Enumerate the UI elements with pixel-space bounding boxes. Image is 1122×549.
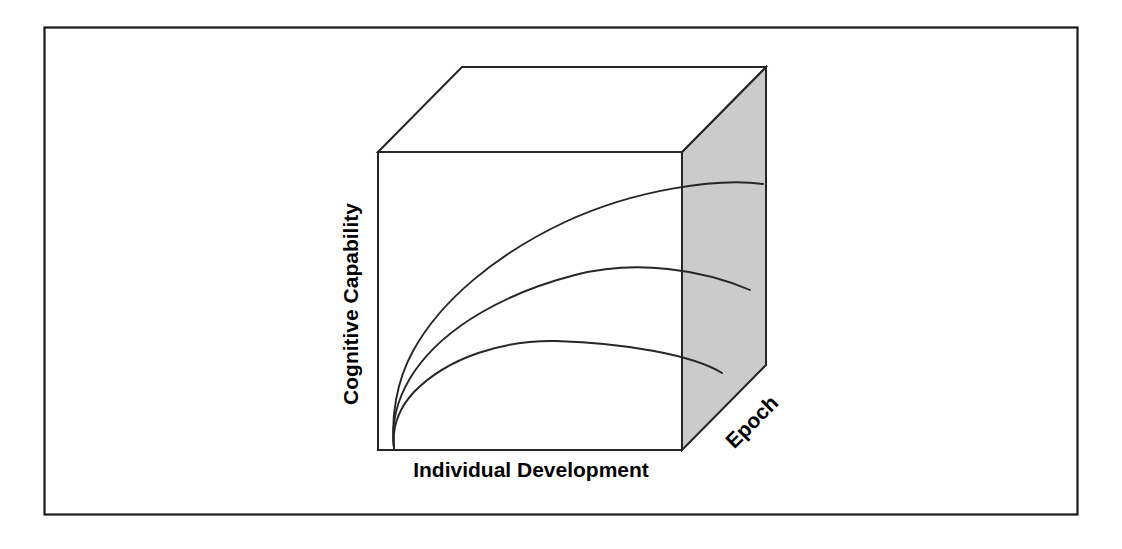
x-axis-label: Individual Development — [413, 458, 649, 481]
figure-container: Cognitive Capability Individual Developm… — [0, 0, 1122, 549]
y-axis-label: Cognitive Capability — [339, 203, 362, 405]
conceptual-3d-chart: Cognitive Capability Individual Developm… — [0, 0, 1122, 549]
